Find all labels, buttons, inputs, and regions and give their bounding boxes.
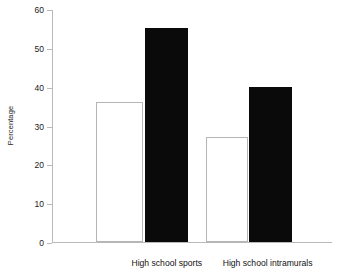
y-tick-mark	[47, 49, 52, 50]
x-axis-category-label: High school sports	[131, 258, 202, 268]
y-tick-label: 50	[35, 44, 44, 54]
bar	[145, 28, 188, 242]
y-tick-label: 40	[35, 83, 44, 93]
y-tick-label: 30	[35, 122, 44, 132]
y-axis-title: Percentage	[0, 0, 22, 250]
y-tick-mark	[47, 204, 52, 205]
y-tick-label: 0	[39, 238, 44, 248]
y-tick-label: 60	[35, 5, 44, 15]
bar	[206, 137, 248, 242]
bar-chart: Percentage 6050403020100 High school spo…	[0, 0, 339, 276]
y-tick-mark	[47, 10, 52, 11]
scan-noise-artifact	[0, 246, 339, 250]
y-tick-mark	[47, 243, 52, 244]
y-axis-line	[52, 10, 53, 243]
y-tick-mark	[47, 127, 52, 128]
y-tick-label: 20	[35, 160, 44, 170]
plot-area: 6050403020100	[52, 10, 332, 243]
bar	[249, 87, 292, 242]
y-axis-title-label: Percentage	[7, 105, 16, 144]
x-axis-category-label: High school intramurals	[223, 258, 313, 268]
bar	[96, 102, 143, 242]
x-axis-line	[52, 242, 332, 243]
y-tick-label: 10	[35, 199, 44, 209]
y-tick-mark	[47, 88, 52, 89]
y-tick-mark	[47, 165, 52, 166]
